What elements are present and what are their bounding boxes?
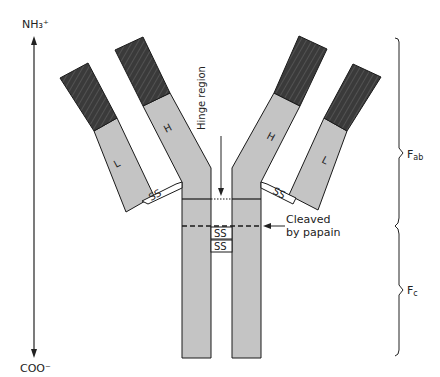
heavy-heavy-disulfides: SS SS (211, 227, 232, 252)
arrow-down-icon (218, 188, 224, 196)
fab-brace (395, 38, 403, 226)
right-heavy-variable (274, 36, 327, 106)
arrow-up-icon (31, 36, 37, 45)
svg-text:SS: SS (214, 228, 227, 239)
left-light-variable (60, 63, 117, 131)
cleave-label-2: by papain (286, 226, 340, 239)
coo-label: COO⁻ (20, 362, 51, 375)
arrow-left-icon (263, 223, 271, 229)
arrow-down-icon (31, 349, 37, 358)
antibody-diagram: NH₃⁺ COO⁻ L H H L SS SS Hinge region (0, 0, 440, 377)
right-light-variable (324, 64, 381, 131)
cleave-label-1: Cleaved (286, 213, 331, 226)
terminus-axis (31, 36, 37, 358)
svg-text:SS: SS (214, 241, 227, 252)
fc-brace (395, 226, 403, 356)
left-heavy-variable (115, 37, 170, 106)
hinge-label: Hinge region (196, 66, 207, 130)
nh3-label: NH₃⁺ (22, 18, 49, 31)
fab-label: Fab (407, 148, 423, 162)
fc-label: Fc (407, 284, 418, 298)
